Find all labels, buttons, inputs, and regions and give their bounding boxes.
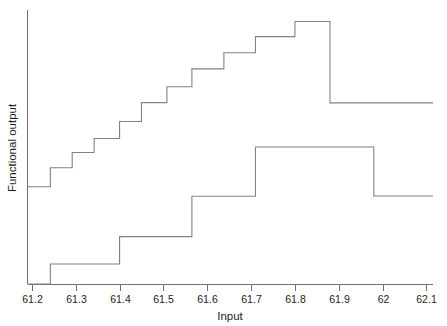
x-axis-tick-label: 61.6: [197, 293, 218, 305]
x-axis-tick-label: 61.2: [22, 293, 43, 305]
x-axis-tick-label: 61.4: [110, 293, 131, 305]
axes-group: [28, 10, 434, 291]
step-function-chart: 61.261.361.461.561.661.761.861.96262.1 I…: [0, 0, 447, 326]
chart-container: 61.261.361.461.561.661.761.861.96262.1 I…: [0, 0, 447, 326]
x-axis-tick-label: 61.8: [285, 293, 306, 305]
x-axis-tick-label: 61.5: [153, 293, 174, 305]
x-axis-title: Input: [217, 310, 243, 322]
x-axis-tick-labels: 61.261.361.461.561.661.761.861.96262.1: [22, 293, 437, 305]
x-axis-ticks: [33, 285, 427, 291]
x-axis-tick-label: 61.3: [66, 293, 87, 305]
lower-step-curve: [28, 147, 434, 284]
y-axis-title: Functional output: [6, 103, 18, 192]
upper-step-curve: [28, 22, 434, 187]
x-axis-tick-label: 62: [378, 293, 390, 305]
series-group: [28, 22, 434, 284]
x-axis-tick-label: 62.1: [416, 293, 437, 305]
x-axis-tick-label: 61.7: [241, 293, 262, 305]
x-axis-tick-label: 61.9: [329, 293, 350, 305]
